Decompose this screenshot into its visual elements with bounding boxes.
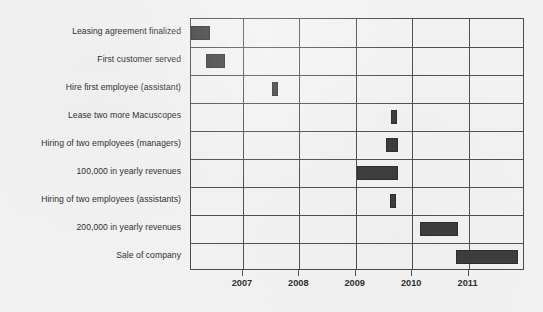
plot-area: [190, 18, 524, 270]
gridline-horizontal: [191, 243, 523, 244]
gantt-chart: Leasing agreement finalized First custom…: [0, 0, 543, 312]
gridline-horizontal: [191, 131, 523, 132]
gridline-vertical: [243, 19, 244, 269]
gantt-bar: [191, 26, 210, 40]
x-axis-tick: [298, 270, 299, 276]
gantt-bar: [420, 222, 458, 236]
category-label: 200,000 in yearly revenues: [77, 223, 182, 232]
x-axis-label: 2008: [288, 279, 308, 288]
category-label: 100,000 in yearly revenues: [77, 167, 182, 176]
gantt-bar: [386, 138, 398, 152]
x-axis-tick: [355, 270, 356, 276]
gridline-horizontal: [191, 103, 523, 104]
category-label: Leasing agreement finalized: [72, 27, 181, 36]
x-axis-label: 2007: [232, 279, 252, 288]
category-label: Hiring of two employees (assistants): [41, 195, 181, 204]
gantt-bar: [391, 110, 397, 124]
x-axis-tick: [242, 270, 243, 276]
gridline-horizontal: [191, 187, 523, 188]
x-axis-label: 2010: [401, 279, 421, 288]
gridline-horizontal: [191, 215, 523, 216]
category-label: Hiring of two employees (managers): [41, 139, 181, 148]
gridline-horizontal: [191, 47, 523, 48]
gridline-vertical: [412, 19, 413, 269]
category-label: Hire first employee (assistant): [66, 83, 181, 92]
gantt-bar: [390, 194, 396, 208]
category-label: Sale of company: [116, 251, 181, 260]
category-label: Lease two more Macuscopes: [68, 111, 181, 120]
category-label: First customer served: [97, 55, 181, 64]
x-axis-tick: [468, 270, 469, 276]
gridline-horizontal: [191, 159, 523, 160]
gantt-bar: [272, 82, 278, 96]
x-axis-label: 2011: [458, 279, 478, 288]
gridline-vertical: [469, 19, 470, 269]
gridline-vertical: [356, 19, 357, 269]
gantt-bar: [456, 250, 517, 264]
gantt-bar: [206, 54, 225, 68]
x-axis-tick: [411, 270, 412, 276]
gridline-vertical: [299, 19, 300, 269]
gridline-horizontal: [191, 75, 523, 76]
category-axis: Leasing agreement finalized First custom…: [0, 18, 186, 270]
x-axis-label: 2009: [345, 279, 365, 288]
gantt-bar: [357, 166, 398, 180]
